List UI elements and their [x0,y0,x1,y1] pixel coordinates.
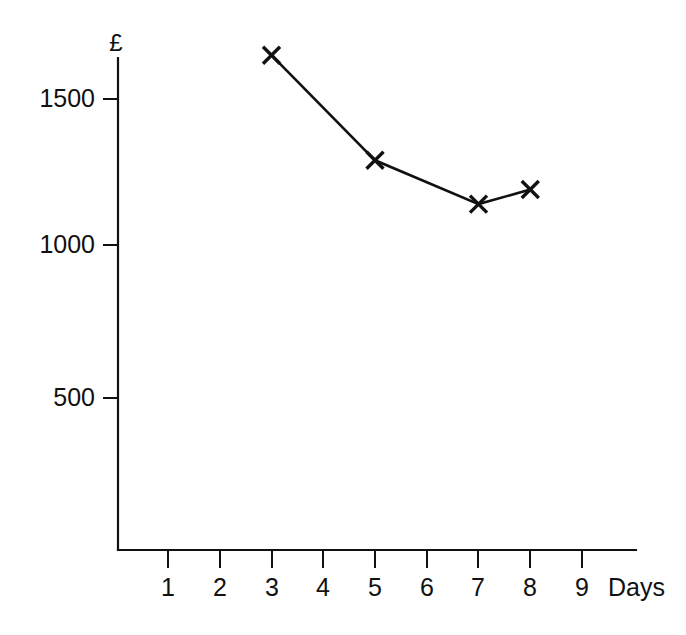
chart-page: £ 1500 1000 500 1 2 3 4 5 6 7 8 9 Days [0,0,686,635]
data-point-marker [522,181,539,198]
line-chart: £ 1500 1000 500 1 2 3 4 5 6 7 8 9 Days [0,0,686,635]
y-tick-label-1000: 1000 [39,230,95,258]
x-tick-label-9: 9 [575,573,589,601]
y-tick-label-1500: 1500 [39,84,95,112]
x-tick-label-1: 1 [161,573,175,601]
x-axis-title: Days [608,573,665,601]
data-point-marker [263,47,280,64]
x-tick-label-2: 2 [213,573,227,601]
series-line [272,55,531,204]
series-markers [263,47,539,213]
x-tick-label-8: 8 [523,573,537,601]
y-axis-title: £ [109,29,122,56]
x-tick-label-4: 4 [316,573,330,601]
x-tick-label-7: 7 [471,573,485,601]
x-tick-label-5: 5 [368,573,382,601]
data-point-marker [367,152,384,169]
x-tick-label-3: 3 [265,573,279,601]
data-point-marker [470,196,487,213]
x-tick-label-6: 6 [420,573,434,601]
y-tick-label-500: 500 [53,383,95,411]
